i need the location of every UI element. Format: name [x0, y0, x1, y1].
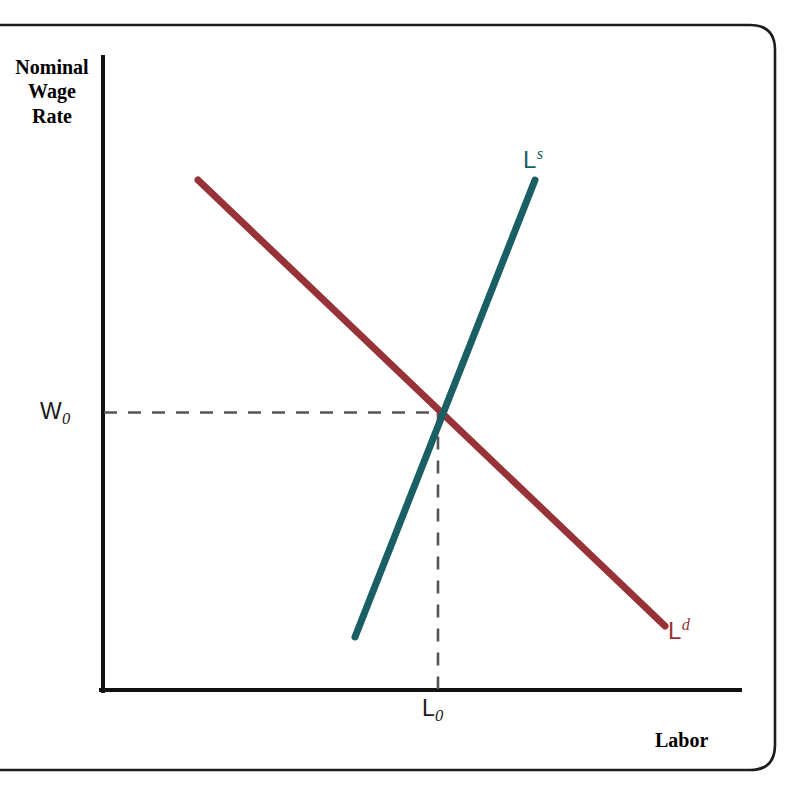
x-axis-title: Labor: [655, 728, 755, 752]
labor-supply-curve: [355, 180, 535, 637]
equilibrium-labor-label: L0: [422, 695, 443, 722]
labor-supply-superscript: s: [537, 144, 543, 163]
labor-demand-curve-label: Ld: [668, 617, 690, 645]
equilibrium-wage-label: W0: [40, 398, 70, 425]
page-frame-border: [0, 25, 775, 770]
labor-demand-curve: [198, 180, 665, 626]
equilibrium-wage-subscript: 0: [62, 409, 70, 428]
figure-root: Nominal Wage Rate Labor W0 L0 Ls Ld: [0, 0, 793, 792]
equilibrium-labor-base: L: [422, 695, 435, 721]
labor-market-diagram: [0, 0, 793, 792]
labor-demand-superscript: d: [682, 615, 690, 634]
labor-demand-base: L: [668, 617, 681, 644]
equilibrium-wage-base: W: [40, 398, 62, 424]
equilibrium-labor-subscript: 0: [435, 706, 443, 725]
labor-supply-curve-label: Ls: [523, 146, 543, 174]
y-axis-title: Nominal Wage Rate: [8, 55, 96, 128]
labor-supply-base: L: [523, 146, 536, 173]
